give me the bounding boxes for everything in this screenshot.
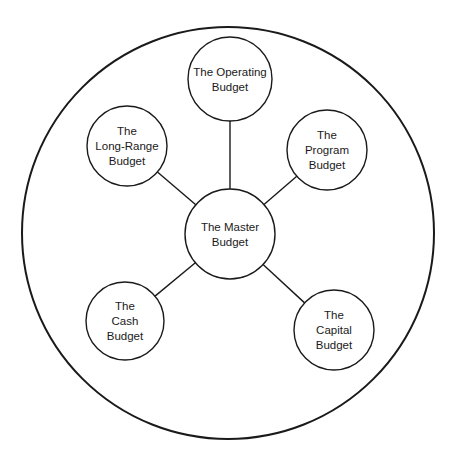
edge-master-to-long-range: [157, 172, 195, 205]
node-circle: [188, 37, 272, 121]
node-operating-budget: The OperatingBudget: [188, 37, 272, 121]
node-label-line: Budget: [212, 236, 249, 248]
budget-nodes: The MasterBudgetThe OperatingBudgetThePr…: [86, 37, 374, 370]
node-label-line: The: [117, 125, 137, 137]
node-label-line: Program: [305, 144, 349, 156]
node-label-line: The Operating: [193, 66, 267, 78]
node-label-line: Budget: [109, 155, 146, 167]
edge-master-to-program: [264, 176, 297, 204]
node-label-line: Cash: [112, 315, 139, 327]
node-label-line: Budget: [309, 159, 346, 171]
node-cash-budget: TheCashBudget: [86, 282, 164, 360]
node-label-line: Budget: [212, 81, 249, 93]
node-label-line: Budget: [316, 339, 353, 351]
edge-master-to-capital: [263, 265, 305, 303]
node-circle: [185, 189, 275, 279]
node-long-range-budget: TheLong-RangeBudget: [87, 106, 167, 186]
node-label-line: Long-Range: [95, 140, 158, 152]
edge-master-to-cash: [155, 263, 195, 296]
node-program-budget: TheProgramBudget: [287, 110, 367, 190]
node-label-line: Capital: [316, 324, 352, 336]
node-master-budget: The MasterBudget: [185, 189, 275, 279]
node-label-line: The Master: [201, 221, 259, 233]
node-capital-budget: TheCapitalBudget: [294, 290, 374, 370]
budget-hub-diagram: The MasterBudgetThe OperatingBudgetThePr…: [0, 0, 453, 457]
node-label-line: The: [317, 129, 337, 141]
node-label-line: The: [115, 300, 135, 312]
node-label-line: Budget: [107, 330, 144, 342]
node-label-line: The: [324, 309, 344, 321]
